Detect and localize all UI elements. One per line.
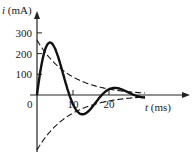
x-axis-label: t (ms): [145, 101, 171, 114]
origin-label: 0: [27, 98, 33, 110]
response-line: [37, 43, 145, 115]
y-tick-label: 200: [16, 48, 33, 60]
y-tick-label: 100: [16, 68, 33, 80]
upper-envelope-line: [37, 40, 145, 93]
x-axis-arrow: [182, 92, 190, 98]
y-tick-label: 300: [16, 27, 33, 39]
y-axis-arrow: [34, 11, 40, 19]
chart: 1002003001020 i (mA) t (ms) 0: [0, 0, 194, 166]
axes: [30, 11, 190, 152]
y-axis-label: i (mA): [2, 4, 32, 17]
lower-envelope-line: [37, 97, 145, 150]
